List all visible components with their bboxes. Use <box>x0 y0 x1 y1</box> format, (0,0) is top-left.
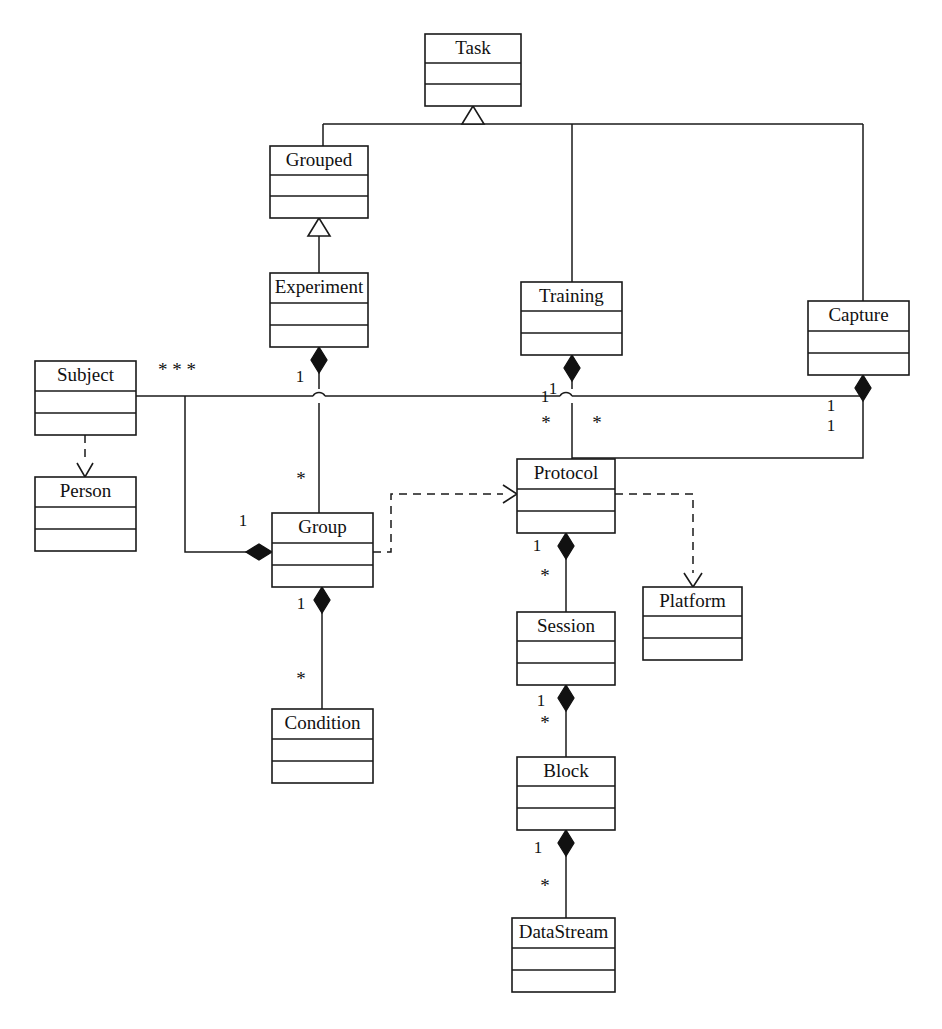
class-name-label-person: Person <box>60 480 112 501</box>
class-name-label-capture: Capture <box>828 304 888 325</box>
composition-diamond-experiment <box>311 347 327 373</box>
edge-group-to-protocol <box>373 494 503 552</box>
class-box-subject[interactable]: Subject <box>35 361 136 435</box>
multiplicity-m-session-block-1: 1 <box>537 691 546 710</box>
multiplicity-m-subject-group-1: 1 <box>239 511 248 530</box>
class-box-grouped[interactable]: Grouped <box>270 146 368 218</box>
class-name-label-block: Block <box>543 760 589 781</box>
class-box-session[interactable]: Session <box>517 612 615 685</box>
generalization-triangle-task <box>462 106 484 124</box>
class-box-task[interactable]: Task <box>425 34 521 106</box>
class-name-label-subject: Subject <box>57 364 115 385</box>
dependency-arrowhead-platform <box>684 573 702 587</box>
class-name-label-protocol: Protocol <box>534 462 598 483</box>
multiplicity-m-group-cond-1: 1 <box>297 594 306 613</box>
class-name-label-grouped: Grouped <box>286 149 353 170</box>
edge-protocol-to-platform <box>615 494 693 573</box>
composition-diamond-training <box>564 355 580 381</box>
multiplicity-m-session-block-star: * <box>540 712 550 733</box>
uml-class-diagram: TaskGroupedExperimentTrainingCaptureSubj… <box>0 0 942 1029</box>
multiplicity-m-experiment-group-1: 1 <box>296 367 305 386</box>
composition-diamond-session <box>558 685 574 711</box>
class-box-group[interactable]: Group <box>272 513 373 587</box>
class-box-block[interactable]: Block <box>517 757 615 830</box>
class-name-label-task: Task <box>455 37 491 58</box>
class-box-group: TaskGroupedExperimentTrainingCaptureSubj… <box>35 34 909 992</box>
composition-diamond-block <box>558 830 574 856</box>
multiplicity-m-protocol-session-star: * <box>540 565 550 586</box>
composition-diamond-capture <box>855 375 871 401</box>
edge-subject-hop-training <box>560 393 572 396</box>
class-name-label-platform: Platform <box>659 590 726 611</box>
multiplicity-m-protocol-session-1: 1 <box>533 536 542 555</box>
dependency-arrowhead-person <box>77 463 93 477</box>
composition-diamond-protocol <box>558 533 574 559</box>
edge-subject-hop-experiment <box>313 393 325 396</box>
multiplicity-m-capture-1b: 1 <box>827 416 836 435</box>
multiplicity-m-capture-proto-star: * <box>592 412 602 433</box>
class-name-label-experiment: Experiment <box>275 276 364 297</box>
composition-diamond-group-bottom <box>314 587 330 613</box>
class-box-datastream[interactable]: DataStream <box>512 918 615 992</box>
class-name-label-datastream: DataStream <box>519 921 609 942</box>
class-box-training[interactable]: Training <box>521 282 622 355</box>
class-name-label-group: Group <box>298 516 347 537</box>
multiplicity-m-training-proto-1b: 1 <box>541 387 550 406</box>
edge-capture-to-protocol <box>572 401 863 458</box>
multiplicity-m-group-cond-star: * <box>296 668 306 689</box>
multiplicity-m-training-proto-star: * <box>541 412 551 433</box>
class-box-condition[interactable]: Condition <box>272 709 373 783</box>
multiplicity-m-experiment-group-star: * <box>296 468 306 489</box>
generalization-triangle-grouped <box>308 218 330 236</box>
class-name-label-training: Training <box>539 285 604 306</box>
multiplicity-m-capture-1a: 1 <box>827 396 836 415</box>
class-box-capture[interactable]: Capture <box>808 301 909 375</box>
multiplicity-m-subject-stars: * * * <box>158 359 196 380</box>
uml-canvas: TaskGroupedExperimentTrainingCaptureSubj… <box>0 0 942 1029</box>
generalization-edges <box>308 106 863 301</box>
class-box-protocol[interactable]: Protocol <box>517 459 615 533</box>
multiplicity-m-training-proto-1a: 1 <box>549 379 558 398</box>
composition-diamond-group-left <box>246 544 272 560</box>
class-box-platform[interactable]: Platform <box>643 587 742 660</box>
dependency-arrowhead-protocol <box>503 485 517 503</box>
composition-edges <box>136 347 871 918</box>
multiplicity-m-block-ds-1: 1 <box>534 838 543 857</box>
multiplicity-m-block-ds-star: * <box>540 875 550 896</box>
class-name-label-session: Session <box>537 615 596 636</box>
class-box-experiment[interactable]: Experiment <box>270 273 368 347</box>
class-name-label-condition: Condition <box>284 712 361 733</box>
class-box-person[interactable]: Person <box>35 477 136 551</box>
